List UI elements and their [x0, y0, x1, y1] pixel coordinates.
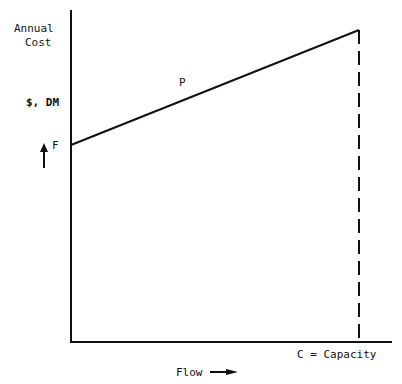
cost-diagram	[0, 0, 402, 384]
flow-right-arrow-icon	[210, 369, 238, 375]
y-axis-title-line2: Cost	[25, 36, 52, 49]
capacity-label: C = Capacity	[297, 348, 376, 361]
y-unit-label: $, DM	[26, 96, 59, 109]
x-axis-label: Flow	[176, 366, 203, 379]
line-label-p: P	[179, 76, 186, 89]
fixed-cost-label: F	[52, 139, 59, 152]
y-axis-title-line1: Annual	[14, 22, 54, 35]
y-up-arrow-icon	[40, 143, 48, 168]
cost-line	[71, 30, 359, 145]
